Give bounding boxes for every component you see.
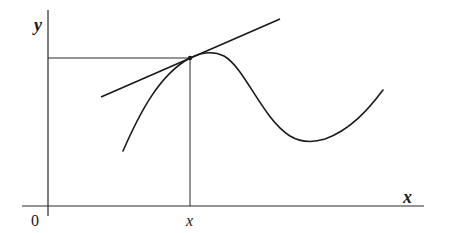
function-curve bbox=[123, 53, 383, 151]
y-axis-label: y bbox=[32, 15, 43, 35]
x-axis-label: x bbox=[402, 187, 412, 207]
point-of-tangency bbox=[188, 56, 192, 60]
function-tangent-diagram: y x 0 x bbox=[0, 0, 464, 233]
origin-label: 0 bbox=[31, 212, 39, 229]
point-x-label: x bbox=[185, 212, 193, 229]
